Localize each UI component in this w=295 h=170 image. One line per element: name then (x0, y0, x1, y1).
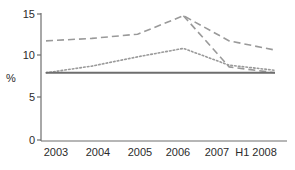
y-axis-title: % (6, 73, 16, 84)
y-tick-label-0: 0 (2, 135, 35, 146)
chart-container: % 15 10 5 0 2003 2004 2005 2006 2007 H1 … (0, 0, 295, 170)
chart-plot-area (0, 0, 295, 170)
data-series-layer (46, 16, 275, 73)
y-tick-label-5: 5 (2, 92, 35, 103)
data-line-series-dashed-upper (46, 16, 275, 50)
y-tick-label-10: 10 (2, 50, 35, 61)
data-line-series-dashed-lower (183, 16, 275, 73)
x-tick-label-h1-2008: H1 2008 (228, 147, 284, 158)
y-tick-label-15: 15 (2, 9, 35, 20)
